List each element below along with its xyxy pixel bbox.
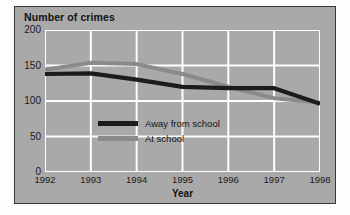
gridlines bbox=[45, 30, 320, 172]
chart-title: Number of crimes bbox=[24, 11, 115, 23]
y-axis-tick-150: 150 bbox=[11, 61, 41, 71]
x-axis-tick-1996: 1996 bbox=[205, 175, 251, 185]
x-axis-tick-labels: 1992199319941995199619971998 bbox=[45, 175, 320, 189]
legend-item-away-from-school: Away from school bbox=[98, 116, 248, 131]
x-axis-label: Year bbox=[45, 188, 320, 199]
y-axis-tick-100: 100 bbox=[11, 96, 41, 106]
chart-legend: Away from school At school bbox=[98, 116, 248, 146]
x-axis-tick-1995: 1995 bbox=[160, 175, 206, 185]
x-axis-tick-1998: 1998 bbox=[297, 175, 343, 185]
chart-figure: Number of crimes 200150100500 1992199319… bbox=[0, 0, 350, 215]
x-axis-tick-1992: 1992 bbox=[22, 175, 68, 185]
y-axis-tick-200: 200 bbox=[11, 25, 41, 35]
plot-svg bbox=[45, 30, 320, 172]
y-axis-tick-labels: 200150100500 bbox=[8, 30, 41, 172]
legend-label-away-from-school: Away from school bbox=[145, 118, 220, 129]
gray-line-swatch-icon bbox=[98, 136, 138, 141]
plot-area bbox=[45, 30, 320, 172]
x-axis-tick-1993: 1993 bbox=[68, 175, 114, 185]
dark-line-swatch-icon bbox=[98, 121, 138, 126]
x-axis-tick-1997: 1997 bbox=[251, 175, 297, 185]
y-axis-tick-50: 50 bbox=[11, 132, 41, 142]
x-axis-tick-1994: 1994 bbox=[114, 175, 160, 185]
legend-label-at-school: At school bbox=[145, 133, 184, 144]
legend-item-at-school: At school bbox=[98, 131, 248, 146]
